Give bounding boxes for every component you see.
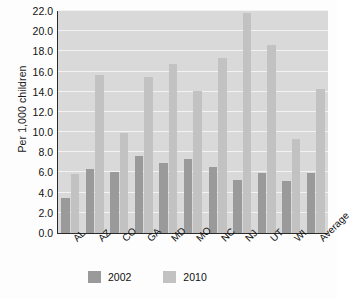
bars-layer bbox=[58, 11, 328, 233]
bar bbox=[159, 163, 168, 233]
bar bbox=[169, 64, 178, 233]
plot-frame bbox=[57, 11, 328, 234]
legend-item: 2002 bbox=[88, 271, 131, 283]
y-axis-tick-label: 0.0 bbox=[13, 227, 53, 239]
bar bbox=[71, 174, 80, 233]
y-axis-tick-label: 20.0 bbox=[13, 25, 53, 37]
bar bbox=[243, 13, 252, 233]
legend-label: 2002 bbox=[108, 271, 131, 283]
bar bbox=[144, 77, 153, 233]
legend-item: 2010 bbox=[163, 271, 206, 283]
bar bbox=[218, 58, 227, 233]
bar-group bbox=[303, 11, 328, 233]
legend-swatch-icon bbox=[163, 271, 176, 283]
bar bbox=[110, 172, 119, 233]
bar bbox=[233, 180, 242, 233]
bar-group bbox=[156, 11, 181, 233]
bar bbox=[86, 169, 95, 233]
y-axis-tick-label: 2.0 bbox=[13, 207, 53, 219]
bar-group bbox=[181, 11, 206, 233]
bar-group bbox=[205, 11, 230, 233]
bar bbox=[209, 167, 218, 233]
bar bbox=[307, 173, 316, 233]
chart-legend: 20022010 bbox=[88, 271, 207, 283]
y-axis-tick-label: 14.0 bbox=[13, 86, 53, 98]
bar bbox=[282, 181, 291, 233]
bar bbox=[267, 45, 276, 233]
bar-group bbox=[83, 11, 108, 233]
legend-label: 2010 bbox=[183, 271, 206, 283]
bar-group bbox=[254, 11, 279, 233]
bar-group bbox=[132, 11, 157, 233]
legend-swatch-icon bbox=[88, 271, 101, 283]
bar bbox=[61, 198, 70, 233]
y-axis-tick-label: 10.0 bbox=[13, 126, 53, 138]
bar bbox=[184, 159, 193, 233]
y-axis-tick-label: 16.0 bbox=[13, 66, 53, 78]
bar-group bbox=[230, 11, 255, 233]
x-axis-tick-labels: ALAZCOGAMDMONCNJUTWIAverage bbox=[57, 234, 327, 276]
bar bbox=[120, 133, 129, 233]
bar bbox=[135, 156, 144, 233]
bar-group bbox=[58, 11, 83, 233]
bar bbox=[292, 139, 301, 233]
bar bbox=[258, 173, 267, 233]
bar bbox=[316, 89, 325, 233]
bar bbox=[193, 91, 202, 233]
bar-group bbox=[279, 11, 304, 233]
plot-area bbox=[58, 11, 328, 233]
y-axis-tick-label: 6.0 bbox=[13, 166, 53, 178]
bar-group bbox=[107, 11, 132, 233]
y-axis-tick-label: 22.0 bbox=[13, 5, 53, 17]
bar bbox=[95, 75, 104, 233]
y-axis-tick-label: 18.0 bbox=[13, 45, 53, 57]
y-axis-tick-label: 4.0 bbox=[13, 187, 53, 199]
y-axis-tick-label: 12.0 bbox=[13, 106, 53, 118]
y-axis-tick-label: 8.0 bbox=[13, 146, 53, 158]
